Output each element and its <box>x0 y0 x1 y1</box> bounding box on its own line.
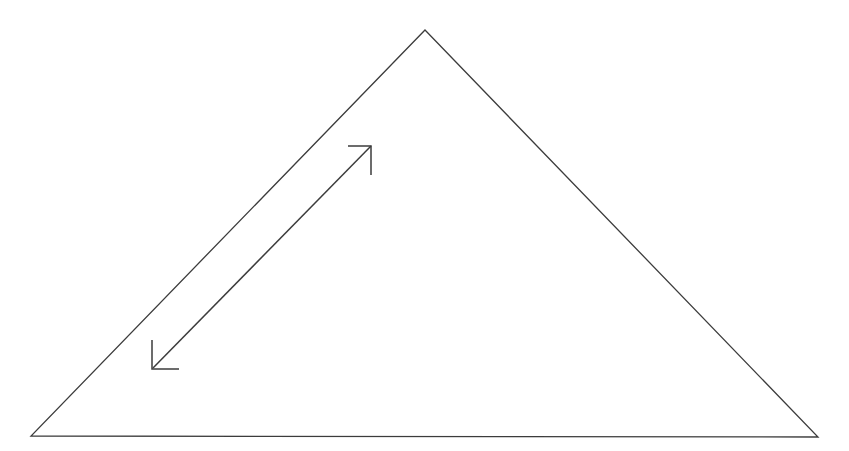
figure-background <box>0 0 849 451</box>
figure-canvas: Triangle with internal double-headed arr… <box>0 0 849 451</box>
figure-container: Triangle with internal double-headed arr… <box>0 0 849 451</box>
